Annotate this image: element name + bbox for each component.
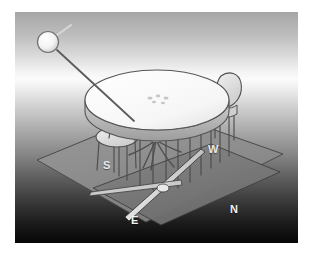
rendered-image-frame: S W N E [15,12,298,243]
compass-label-west: W [208,144,218,155]
screenshot-root: S W N E [0,0,311,255]
light-source-sphere [38,25,72,53]
round-table [85,70,229,141]
scene-3d [15,12,298,243]
compass-label-east: E [131,215,138,226]
compass-label-north: N [230,204,238,215]
compass-label-south: S [103,160,110,171]
